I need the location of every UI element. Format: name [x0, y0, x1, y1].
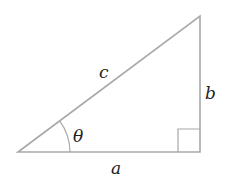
angle-arc — [60, 121, 70, 152]
right-angle-marker — [178, 129, 200, 152]
triangle-outline — [18, 16, 200, 152]
label-hypotenuse: c — [99, 62, 109, 82]
label-adjacent: a — [111, 158, 121, 176]
right-triangle-diagram: c b a θ — [0, 0, 231, 176]
label-angle-theta: θ — [73, 126, 83, 146]
label-opposite: b — [205, 83, 216, 103]
